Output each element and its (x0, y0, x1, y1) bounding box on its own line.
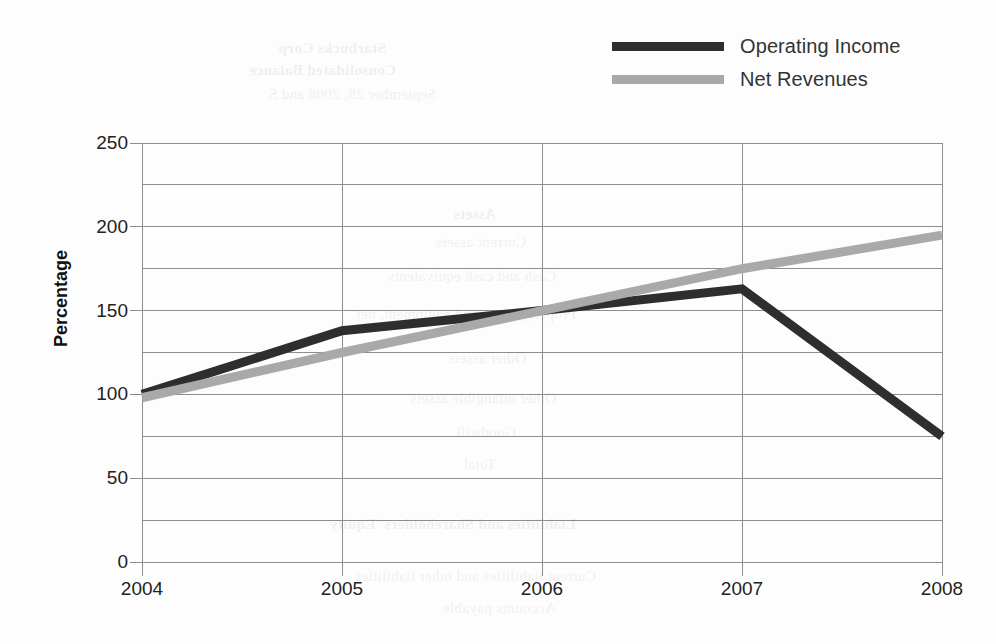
legend-item-operating-income: Operating Income (612, 30, 942, 63)
y-axis-tick-label: 250 (96, 132, 128, 154)
chart-legend: Operating Income Net Revenues (612, 30, 942, 96)
y-axis-tick-label: 100 (96, 383, 128, 405)
y-axis-tick-label: 150 (96, 300, 128, 322)
legend-swatch-operating-income (612, 42, 724, 51)
x-axis-tick-label: 2005 (321, 578, 363, 600)
legend-label-operating-income: Operating Income (740, 35, 901, 58)
line-chart-figure: Starbucks Corp Consolidated Balance Sept… (0, 0, 996, 644)
legend-swatch-net-revenues (612, 75, 724, 84)
y-axis-tick-label: 50 (107, 467, 128, 489)
watermark-line: Consolidated Balance (249, 62, 396, 79)
plot-area (142, 143, 942, 562)
x-axis-tick-label: 2007 (721, 578, 763, 600)
legend-label-net-revenues: Net Revenues (740, 68, 868, 91)
y-axis-tick-label: 200 (96, 216, 128, 238)
legend-item-net-revenues: Net Revenues (612, 63, 942, 96)
watermark-line: September 28, 2008 and S (269, 86, 437, 103)
chart-series-lines (142, 143, 942, 562)
x-axis-tick-label: 2006 (521, 578, 563, 600)
y-axis-tick-label: 0 (117, 551, 128, 573)
watermark-line: Starbucks Corp (278, 40, 386, 57)
x-axis-tick-labels: 20042005200620072008 (142, 578, 942, 608)
x-axis-tick-label: 2008 (921, 578, 963, 600)
x-axis-tick-label: 2004 (121, 578, 163, 600)
y-axis-tick-labels: 050100150200250 (56, 143, 128, 562)
